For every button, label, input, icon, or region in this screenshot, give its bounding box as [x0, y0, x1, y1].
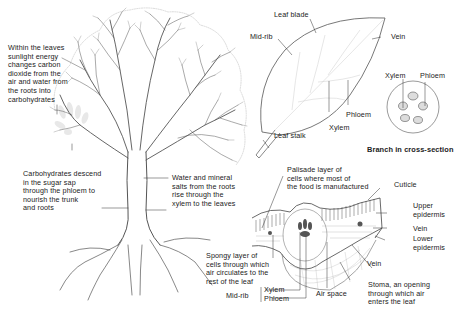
branch-phloem-label: Phloem — [420, 72, 445, 81]
vein-label: Vein — [391, 33, 405, 42]
ghost-leaves-icon — [53, 102, 90, 135]
cross-section-mid-rib-label: Mid-rib — [226, 292, 249, 301]
spongy-layer-label: Spongy layer of cells through which air … — [206, 252, 269, 286]
leaves-photosynthesis-note: Within the leaves sunlight energy change… — [8, 44, 68, 104]
photosynthesis-diagram: Within the leaves sunlight energy change… — [0, 0, 456, 310]
upper-epidermis-label: Upper epidermis — [413, 202, 445, 219]
leaf-blade-label: Leaf blade — [274, 11, 309, 20]
leaf-xylem-label: Xylem — [329, 124, 349, 133]
right-vein-label: Vein — [413, 225, 427, 234]
stoma-label: Stoma, an opening through which air ente… — [368, 281, 430, 307]
leaf-phloem-label: Phloem — [346, 111, 371, 120]
lower-epidermis-label: Lower epidermis — [413, 235, 445, 252]
mid-rib-label: Mid-rib — [250, 33, 273, 42]
leaf-stalk-label: Leaf stalk — [274, 132, 306, 141]
branch-cross-section — [387, 79, 439, 133]
bottom-vein-label: Vein — [367, 260, 381, 269]
cross-section-phloem-label: Phloem — [264, 295, 289, 304]
palisade-layer-label: Palisade layer of cells where most of th… — [287, 166, 369, 192]
xylem-transport-note: Water and mineral salts from the roots r… — [172, 174, 235, 208]
air-space-label: Air space — [316, 290, 347, 299]
cuticle-label: Cuticle — [394, 181, 417, 190]
branch-cross-section-caption: Branch in cross-section — [367, 146, 454, 155]
branch-xylem-label: Xylem — [385, 72, 405, 81]
leaf-tissue-cross-section — [252, 176, 387, 302]
phloem-transport-note: Carbohydrates descend in the sugar sap t… — [23, 170, 101, 213]
